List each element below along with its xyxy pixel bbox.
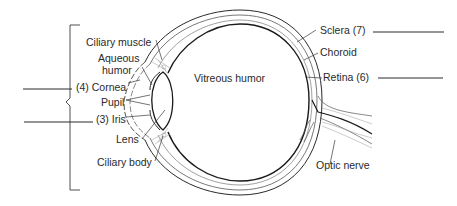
label-aqueous-humor-line2: humor	[102, 64, 132, 76]
lens	[152, 72, 173, 130]
label-choroid: Choroid	[320, 46, 357, 58]
label-cornea: (4) Cornea	[76, 81, 126, 93]
label-ciliary-muscle: Ciliary muscle	[86, 36, 151, 48]
label-lens: Lens	[116, 133, 139, 145]
label-optic-nerve: Optic nerve	[316, 159, 370, 171]
label-iris: (3) Iris	[96, 113, 126, 125]
eye-diagram	[0, 0, 457, 206]
label-retina: Retina (6)	[323, 71, 369, 83]
label-pupil: Pupil	[101, 96, 124, 108]
left-bracket	[66, 25, 80, 190]
label-sclera: Sclera (7)	[320, 24, 366, 36]
retina-layer	[168, 24, 309, 181]
label-aqueous-humor-line1: Aqueous	[98, 52, 139, 64]
label-vitreous-humor: Vitreous humor	[194, 72, 265, 84]
sclera-inner	[150, 15, 317, 190]
label-ciliary-body: Ciliary body	[97, 156, 152, 168]
